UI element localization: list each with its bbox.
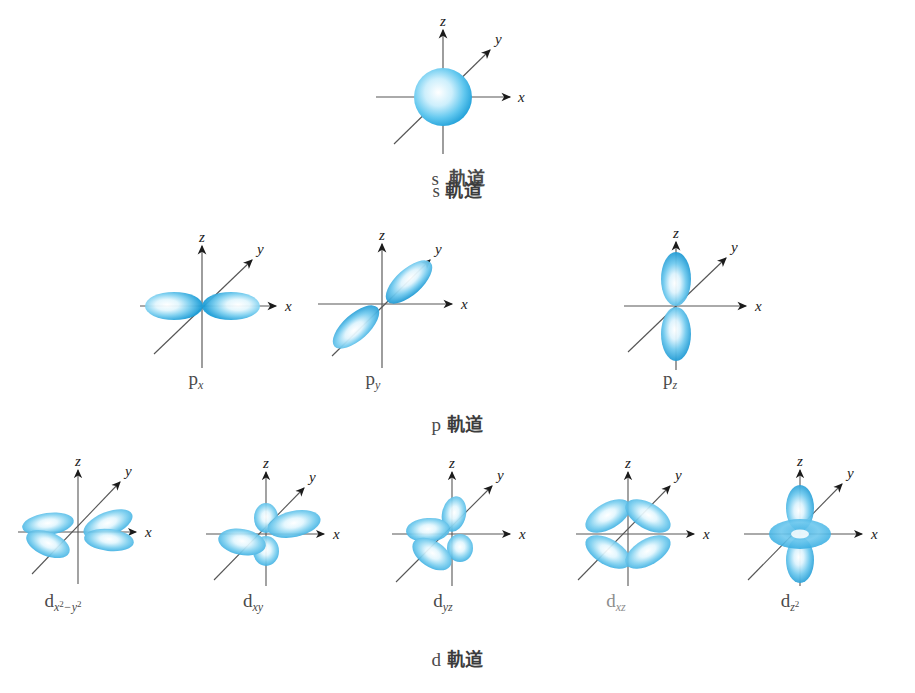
orbital-diagram-pz: x z y <box>620 228 830 378</box>
orbital-diagram-dx2y2: x z y <box>8 452 188 592</box>
orbital-cell-py: x z y py <box>300 228 510 378</box>
axis-label-y-pz: y <box>729 239 738 255</box>
orbital-diagram-py: x z y <box>300 228 510 378</box>
orbital-cell-pz: x z y pz <box>620 228 830 378</box>
orbital-lobes-dyz <box>405 494 473 577</box>
axis-label-x-dxz: x <box>702 526 710 542</box>
axis-label-z-px: z <box>198 229 205 245</box>
axis-label-x-dxy: x <box>332 526 340 542</box>
axis-label-x-dz2: x <box>870 526 878 542</box>
orbital-label-sub-pz: z <box>672 378 677 392</box>
orbital-lobes-dz2 <box>769 485 831 583</box>
orbital-label-dx2y2: dx2−y2 <box>0 590 153 615</box>
orbital-label-letter-dxy: d <box>243 590 253 611</box>
orbital-label-sub-dxy: xy <box>252 600 263 614</box>
axis-label-z-s: z <box>439 14 446 29</box>
orbital-label-letter-pz: p <box>663 368 673 389</box>
orbital-label-dyz: dyz <box>353 590 533 615</box>
orbital-label-letter-px: p <box>189 368 199 389</box>
orbital-cell-dz2: x z y dz2 <box>738 452 915 592</box>
orbital-cell-s: x z y s 軌道 <box>358 14 558 164</box>
orbital-diagram-dz2: x z y <box>738 452 915 592</box>
orbital-cell-dx2y2: x z y dx2−y2 <box>8 452 188 592</box>
orbital-label-sub-py: y <box>375 378 380 392</box>
orbital-label-sub-dyz: yz <box>443 600 453 614</box>
orbital-diagram-dxz: x z y <box>566 452 746 592</box>
row-caption-letter-p: p <box>432 414 442 435</box>
axis-label-z-pz: z <box>672 228 679 241</box>
row-caption-p: p軌道 <box>0 410 915 436</box>
orbital-cell-dyz: x z y dyz <box>388 452 568 592</box>
axis-label-y-dxy: y <box>307 469 316 485</box>
axis-label-z-py: z <box>378 228 385 243</box>
axis-label-x-pz: x <box>754 298 762 314</box>
orbital-figure: x z y s 軌道 <box>0 0 915 693</box>
orbital-lobes-dx2y2 <box>21 503 137 564</box>
orbital-cell-dxy: x z y dxy <box>198 452 378 592</box>
axis-label-z-dyz: z <box>448 455 455 471</box>
orbital-label-sub-px: x <box>198 378 203 392</box>
row-caption-letter-d: d <box>432 649 442 670</box>
axis-label-x-px: x <box>284 298 292 314</box>
axis-label-y-px: y <box>255 241 264 257</box>
axis-label-y-py: y <box>433 241 442 257</box>
orbital-label-py: py <box>268 368 478 393</box>
orbital-diagram-s: x z y <box>358 14 558 164</box>
axis-label-x-dyz: x <box>518 526 526 542</box>
orbital-label-letter-dyz: d <box>433 590 443 611</box>
axis-label-y-dz2: y <box>845 465 854 481</box>
orbital-torus-hole-dz2 <box>791 530 809 539</box>
orbital-label-letter-py: p <box>366 368 376 389</box>
orbital-cell-dxz: x z y dxz <box>566 452 746 592</box>
orbital-lobe-sphere <box>414 68 472 126</box>
orbital-label-dz2: dz2 <box>700 590 880 615</box>
row-caption-d: d軌道 <box>0 645 915 671</box>
axis-label-x-dx2y2: x <box>144 524 152 540</box>
axis-label-y-dx2y2: y <box>123 463 132 479</box>
row-caption-word-s: 軌道 <box>440 180 482 201</box>
axis-label-z-dxz: z <box>624 455 631 471</box>
axis-label-y-dxz: y <box>673 467 682 483</box>
axis-label-x-py: x <box>460 296 468 312</box>
orbital-label-letter-dx2y2: d <box>45 590 55 611</box>
axis-label-y-s: y <box>493 31 502 47</box>
orbital-diagram-dyz: x z y <box>388 452 568 592</box>
orbital-label-letter-dxz: d <box>606 590 616 611</box>
axis-label-z-dx2y2: z <box>74 453 81 469</box>
orbital-label-letter-dz2: d <box>781 590 791 611</box>
row-caption-word-d: 軌道 <box>442 649 484 670</box>
row-caption-s: s軌道 <box>0 176 915 202</box>
row-caption-word-p: 軌道 <box>442 414 484 435</box>
orbital-label-dxy: dxy <box>163 590 343 615</box>
axis-label-z-dxy: z <box>262 455 269 471</box>
orbital-label-pz: pz <box>565 368 775 393</box>
axis-label-x-s: x <box>517 89 525 105</box>
orbital-diagram-dxy: x z y <box>198 452 378 592</box>
axis-label-y-dyz: y <box>495 467 504 483</box>
orbital-label-dxz: dxz <box>526 590 706 615</box>
axis-label-z-dz2: z <box>796 453 803 469</box>
orbital-label-sub-dxz: xz <box>616 600 626 614</box>
